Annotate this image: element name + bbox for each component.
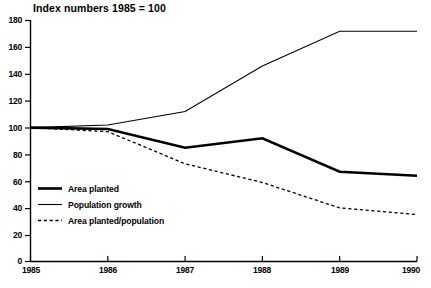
ytick-label-160: 160: [0, 42, 22, 52]
ytick-label-80: 80: [0, 150, 22, 160]
xtick-label-1988: 1988: [242, 265, 282, 275]
xtick-label-1989: 1989: [320, 265, 360, 275]
ytick-label-60: 60: [0, 177, 22, 187]
legend-label-area-planted: Area planted: [68, 184, 119, 194]
x-tick-marks: [31, 256, 418, 262]
xtick-label-1990: 1990: [391, 265, 431, 275]
legend-label-population-growth: Population growth: [68, 200, 142, 210]
legend-swatches: [38, 189, 62, 221]
xtick-label-1986: 1986: [88, 265, 128, 275]
ytick-label-180: 180: [0, 15, 22, 25]
xtick-label-1985: 1985: [11, 265, 51, 275]
ytick-label-120: 120: [0, 96, 22, 106]
series-line-population-growth: [31, 31, 418, 127]
ytick-label-100: 100: [0, 123, 22, 133]
ytick-label-40: 40: [0, 203, 22, 213]
ytick-label-20: 20: [0, 230, 22, 240]
y-tick-marks: [25, 21, 31, 262]
xtick-label-1987: 1987: [165, 265, 205, 275]
series-line-area-planted: [31, 128, 418, 176]
legend-label-area-planted-population: Area planted/population: [68, 216, 164, 226]
line-chart: Index numbers 1985 = 100: [0, 0, 431, 288]
ytick-label-140: 140: [0, 69, 22, 79]
plot-area: [0, 0, 431, 288]
